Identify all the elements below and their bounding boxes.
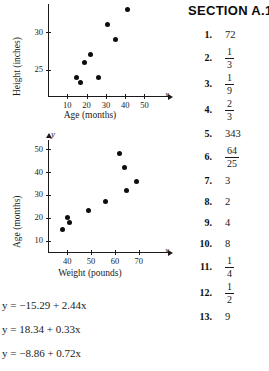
x-axis-variable: x [165,90,169,99]
x-axis-tick [125,94,126,99]
data-point [122,165,127,170]
answer-value: 72 [219,29,269,41]
y-axis-tick [46,241,51,242]
x-axis-tick [67,94,68,99]
answer-row: 6.6425 [182,144,269,170]
answer-value: 9 [219,311,269,323]
regression-equation-list: y = −15.29 + 2.44x y = 18.34 + 0.33x y =… [2,300,180,371]
data-point [134,179,139,184]
fraction-denominator: 2 [225,293,234,305]
regression-equation: y = 18.34 + 0.33x [2,324,180,335]
fraction-denominator: 9 [225,84,234,96]
answer-row: 2.13 [182,45,269,71]
fraction: 14 [225,256,234,279]
fraction-numerator: 1 [225,256,234,267]
x-axis-tick [67,250,68,255]
plot-area-1: 10203040502530 [48,4,158,96]
x-axis-variable: x [165,246,169,255]
answer-number: 5. [182,128,219,140]
fraction: 12 [225,282,234,305]
scatter-chart-age-vs-weight: 405060701020304050 Weight (pounds) Age (… [0,128,180,293]
x-tick-label: 50 [132,101,156,110]
answer-number: 8. [182,196,219,208]
answer-value: 23 [219,99,269,122]
data-point [125,7,130,12]
x-tick-label: 40 [55,257,79,266]
answer-number: 11. [182,261,219,273]
x-axis-line [48,96,168,97]
data-point [96,75,101,80]
y-axis-tick [46,70,51,71]
x-axis-tick [91,250,92,255]
figures-column: 10203040502530 Age (months) Height (inch… [0,0,180,371]
answer-row: 9.4 [182,212,269,233]
fraction-denominator: 3 [225,110,234,122]
answer-number: 6. [182,151,219,163]
fraction: 23 [225,99,234,122]
answer-value: 343 [219,128,269,140]
data-point [103,199,108,204]
fraction: 19 [225,73,234,96]
x-axis-tick [106,94,107,99]
x-tick-label: 70 [127,257,151,266]
data-point [105,22,110,27]
answer-value: 6425 [219,146,269,169]
answer-number: 12. [182,287,219,299]
y-tick-label: 40 [16,168,43,177]
answer-number: 13. [182,311,219,323]
answer-number: 1. [182,29,219,41]
regression-equation: y = −8.86 + 0.72x [2,348,180,359]
answer-value: 3 [219,175,269,187]
answer-row: 5.343 [182,123,269,144]
x-tick-label: 60 [103,257,127,266]
answer-row: 7.3 [182,170,269,191]
answer-row: 13.9 [182,306,269,327]
data-point [86,208,91,213]
x-axis-tick [139,250,140,255]
answer-row: 4.23 [182,97,269,123]
fraction-denominator: 4 [225,267,234,279]
answer-value: 19 [219,73,269,96]
y-tick-label: 50 [16,145,43,154]
fraction-numerator: 1 [225,73,234,84]
x-axis-tick [144,94,145,99]
answer-row: 8.2 [182,191,269,212]
fraction-denominator: 3 [225,58,234,70]
answer-number: 4. [182,104,219,116]
answer-row: 10.8 [182,233,269,254]
x-axis-title: Weight (pounds) [0,268,180,279]
fraction: 13 [225,47,234,70]
data-point [124,188,129,193]
y-axis-tick [46,195,51,196]
plot-area-2: 405060701020304050 [48,140,158,252]
data-point [60,227,65,232]
answer-value: 2 [219,196,269,208]
answer-number: 10. [182,238,219,250]
fraction-denominator: 25 [225,157,239,169]
scatter-chart-height-vs-age: 10203040502530 Age (months) Height (inch… [0,0,180,124]
answer-row: 3.19 [182,71,269,97]
fraction-numerator: 2 [225,99,234,110]
y-axis-line [48,140,49,252]
data-point [74,75,79,80]
y-axis-tick [46,32,51,33]
y-axis-line [48,4,49,96]
answer-number: 3. [182,78,219,90]
data-point [82,60,87,65]
data-point [113,37,118,42]
x-axis-tick [115,250,116,255]
section-heading: SECTION A.1 [188,3,269,18]
answer-key-column: SECTION A.1 1.722.133.194.235.3436.64257… [182,0,269,371]
y-axis-tick [46,172,51,173]
data-point [117,151,122,156]
answer-number: 7. [182,175,219,187]
answer-row: 11.14 [182,254,269,280]
y-axis-title: Age (months) [12,195,23,248]
fraction-numerator: 1 [225,47,234,58]
y-axis-tick [46,218,51,219]
x-axis-tick [87,94,88,99]
y-axis-tick [46,149,51,150]
answer-value: 8 [219,238,269,250]
y-tick-label: 30 [16,28,43,37]
fraction-numerator: 1 [225,282,234,293]
